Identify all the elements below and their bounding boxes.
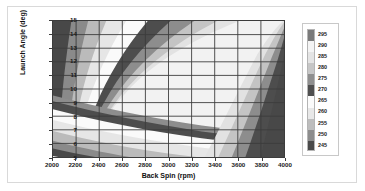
contour-chart-figure: Launch Angle (deg): [0, 0, 365, 191]
legend-label: 255: [318, 121, 337, 126]
colorbar-swatch: [308, 52, 314, 63]
y-tick-label: 6: [51, 141, 77, 147]
legend-label: 250: [318, 132, 337, 137]
legend-label: 295: [318, 32, 337, 37]
legend-label: 285: [318, 54, 337, 59]
contour-bands: [53, 21, 284, 157]
y-tick-label: 9: [51, 100, 77, 106]
colorbar-swatch: [308, 119, 314, 130]
legend-label: 245: [318, 143, 337, 148]
contour-plot-area: [52, 20, 285, 158]
legend-label: 270: [318, 87, 337, 92]
x-axis-title: Back Spin (rpm): [52, 172, 285, 179]
legend-label: 260: [318, 109, 337, 114]
y-tick-label: 8: [51, 114, 77, 120]
legend-label: 265: [318, 98, 337, 103]
colorbar-swatch: [308, 85, 314, 96]
x-tick-mark: [215, 158, 216, 161]
legend-label: 280: [318, 65, 337, 70]
x-tick-mark: [52, 158, 53, 161]
colorbar-swatch: [308, 74, 314, 85]
y-tick-mark: [49, 130, 52, 131]
x-tick-mark: [285, 158, 286, 161]
y-tick-mark: [49, 89, 52, 90]
colorbar-swatch: [308, 30, 314, 41]
x-tick-mark: [75, 158, 76, 161]
colorbar-swatch: [308, 141, 314, 151]
colorbar-swatch: [308, 63, 314, 74]
y-tick-mark: [49, 34, 52, 35]
plot-area-wrapper: [52, 20, 285, 158]
x-tick-mark: [169, 158, 170, 161]
x-tick-mark: [238, 158, 239, 161]
x-tick-mark: [192, 158, 193, 161]
y-tick-mark: [49, 61, 52, 62]
y-tick-label: 15: [51, 17, 77, 23]
legend-label: 290: [318, 43, 337, 48]
legend: 295290285280275270265260255250245: [302, 23, 339, 156]
colorbar-swatch: [308, 96, 314, 107]
y-tick-label: 14: [51, 31, 77, 37]
y-tick-label: 13: [51, 45, 77, 51]
x-tick-mark: [99, 158, 100, 161]
y-tick-mark: [49, 103, 52, 104]
y-tick-label: 10: [51, 86, 77, 92]
x-tick-label: 4000: [268, 162, 302, 168]
legend-inner: 295290285280275270265260255250245: [307, 29, 337, 151]
x-tick-mark: [262, 158, 263, 161]
legend-label: 275: [318, 76, 337, 81]
colorbar-swatch: [308, 130, 314, 141]
colorbar: [307, 29, 315, 151]
colorbar-swatch: [308, 108, 314, 119]
y-tick-mark: [49, 20, 52, 21]
x-tick-mark: [145, 158, 146, 161]
y-tick-label: 7: [51, 127, 77, 133]
colorbar-swatch: [308, 41, 314, 52]
y-tick-mark: [49, 48, 52, 49]
y-axis-title: Launch Angle (deg): [19, 0, 26, 98]
y-tick-label: 11: [51, 72, 77, 78]
y-tick-mark: [49, 117, 52, 118]
x-tick-mark: [122, 158, 123, 161]
y-tick-mark: [49, 144, 52, 145]
y-tick-label: 12: [51, 58, 77, 64]
y-tick-mark: [49, 75, 52, 76]
